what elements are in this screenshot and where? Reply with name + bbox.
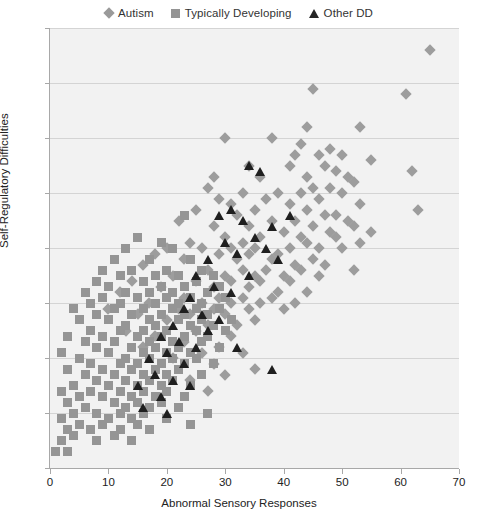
data-point-triangle <box>174 337 184 346</box>
data-point-square <box>110 337 119 346</box>
legend-label-typically-developing: Typically Developing <box>185 7 292 19</box>
data-point-square <box>227 315 236 324</box>
gridline <box>50 358 459 359</box>
data-point-diamond <box>325 143 336 154</box>
x-axis-tick <box>401 469 402 474</box>
data-point-diamond <box>249 204 260 215</box>
data-point-triangle <box>197 310 207 319</box>
data-point-square <box>116 409 125 418</box>
data-point-triangle <box>214 211 224 220</box>
data-point-diamond <box>412 204 423 215</box>
data-point-diamond <box>290 149 301 160</box>
scatter-plot-figure: Autism Typically Developing Other DD 010… <box>0 0 478 522</box>
data-point-square <box>98 293 107 302</box>
data-point-diamond <box>301 204 312 215</box>
data-point-diamond <box>296 187 307 198</box>
data-point-triangle <box>138 403 148 412</box>
data-point-diamond <box>284 160 295 171</box>
data-point-triangle <box>168 321 178 330</box>
gridline <box>50 28 459 29</box>
data-point-square <box>203 409 212 418</box>
data-point-triangle <box>244 161 254 170</box>
legend-label-other-dd: Other DD <box>324 7 373 19</box>
gridline <box>50 193 459 194</box>
data-point-square <box>221 326 230 335</box>
data-point-triangle <box>238 216 248 225</box>
data-point-diamond <box>348 264 359 275</box>
x-axis-tick <box>225 469 226 474</box>
data-point-square <box>98 332 107 341</box>
data-point-triangle <box>250 233 260 242</box>
data-point-square <box>127 365 136 374</box>
data-point-square <box>133 420 142 429</box>
data-point-diamond <box>220 369 231 380</box>
data-point-square <box>145 255 154 264</box>
data-point-square <box>92 436 101 445</box>
data-point-diamond <box>243 303 254 314</box>
data-point-square <box>57 387 66 396</box>
data-point-triangle <box>285 211 295 220</box>
data-point-diamond <box>301 286 312 297</box>
data-point-diamond <box>313 270 324 281</box>
data-point-triangle <box>162 348 172 357</box>
data-point-square <box>75 315 84 324</box>
data-point-square <box>110 431 119 440</box>
data-point-diamond <box>237 187 248 198</box>
x-axis-tick-label: 0 <box>30 476 70 488</box>
data-point-square <box>86 387 95 396</box>
data-point-square <box>180 392 189 401</box>
data-point-square <box>180 211 189 220</box>
data-point-triangle <box>255 167 265 176</box>
legend-entry-other-dd: Other DD <box>309 7 373 19</box>
data-point-square <box>57 436 66 445</box>
data-point-square <box>186 420 195 429</box>
data-point-diamond <box>255 297 266 308</box>
data-point-triangle <box>179 359 189 368</box>
data-point-square <box>81 403 90 412</box>
x-axis-tick-label: 20 <box>147 476 187 488</box>
data-point-diamond <box>331 231 342 242</box>
data-point-square <box>133 332 142 341</box>
data-point-square <box>127 436 136 445</box>
legend-entry-typically-developing: Typically Developing <box>171 7 292 19</box>
data-point-diamond <box>296 138 307 149</box>
x-axis-tick <box>50 469 51 474</box>
data-point-diamond <box>325 182 336 193</box>
data-point-triangle <box>133 381 143 390</box>
x-axis-tick <box>342 469 343 474</box>
data-point-square <box>197 370 206 379</box>
data-point-diamond <box>331 165 342 176</box>
data-point-diamond <box>354 237 365 248</box>
data-point-diamond <box>261 264 272 275</box>
data-point-square <box>192 354 201 363</box>
data-point-triangle <box>203 255 213 264</box>
data-point-square <box>75 420 84 429</box>
data-point-triangle <box>244 271 254 280</box>
data-point-triangle <box>232 249 242 258</box>
data-point-square <box>75 354 84 363</box>
data-point-diamond <box>202 182 213 193</box>
data-point-square <box>168 304 177 313</box>
data-point-square <box>209 359 218 368</box>
y-axis-tick <box>45 138 50 139</box>
data-point-triangle <box>209 282 219 291</box>
data-point-triangle <box>156 392 166 401</box>
gridline <box>50 138 459 139</box>
data-point-triangle <box>226 205 236 214</box>
data-point-triangle <box>150 370 160 379</box>
data-point-square <box>110 370 119 379</box>
x-axis-tick-label: 60 <box>381 476 421 488</box>
data-point-square <box>110 255 119 264</box>
data-point-triangle <box>232 343 242 352</box>
data-point-square <box>63 332 72 341</box>
data-point-triangle <box>220 238 230 247</box>
data-point-square <box>98 392 107 401</box>
data-point-square <box>157 310 166 319</box>
data-point-diamond <box>307 220 318 231</box>
data-point-square <box>127 266 136 275</box>
y-axis-tick <box>45 248 50 249</box>
data-point-square <box>92 310 101 319</box>
data-point-diamond <box>336 187 347 198</box>
data-point-diamond <box>336 149 347 160</box>
data-point-diamond <box>208 220 219 231</box>
